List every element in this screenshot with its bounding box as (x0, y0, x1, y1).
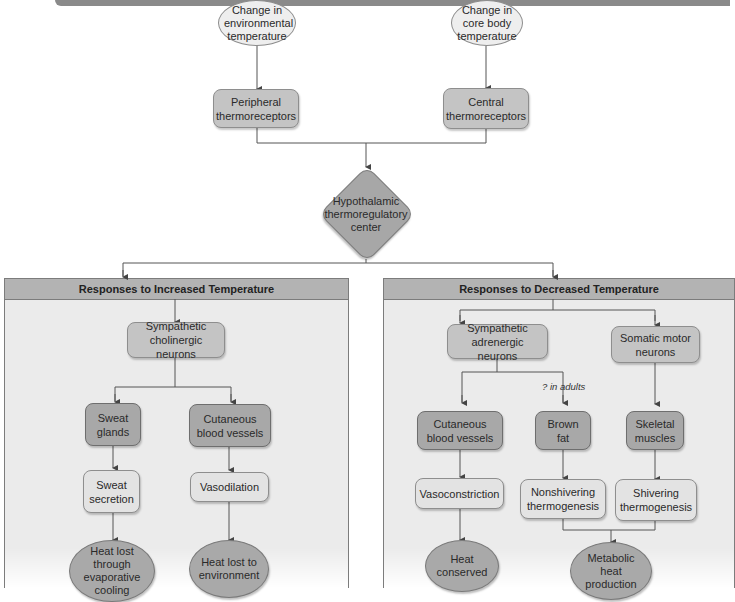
node-vasodilation: Vasodilation (190, 472, 269, 502)
node-sweat-glands: Sweat glands (85, 403, 141, 446)
node-nonshivering-thermogenesis: Nonshivering thermogenesis (520, 479, 606, 519)
outcome-evaporative-cooling: Heat lost through evaporative cooling (69, 540, 155, 602)
node-vasoconstriction: Vasoconstriction (415, 478, 504, 509)
node-shivering-thermogenesis: Shivering thermogenesis (615, 479, 697, 521)
node-central-thermoreceptors: Central thermoreceptors (443, 88, 529, 129)
input-environmental-temperature: Change in environmental temperature (218, 0, 296, 46)
annotation-in-adults: ? in adults (542, 381, 585, 392)
node-sweat-secretion: Sweat secretion (83, 470, 140, 513)
node-hypothalamic-center: Hypothalamic thermoregulatory center (320, 167, 412, 259)
node-sympathetic-cholinergic: Sympathetic cholinergic neurons (127, 322, 225, 358)
input-core-body-temperature: Change in core body temperature (451, 0, 523, 46)
node-brown-fat: Brown fat (535, 411, 591, 450)
outcome-heat-conserved: Heat conserved (425, 540, 499, 592)
outcome-heat-lost-environment: Heat lost to environment (189, 540, 269, 598)
node-cutaneous-vessels-decreased: Cutaneous blood vessels (417, 411, 503, 450)
node-skeletal-muscles: Skeletal muscles (626, 411, 684, 450)
node-somatic-motor-neurons: Somatic motor neurons (611, 326, 700, 363)
node-sympathetic-adrenergic: Sympathetic adrenergic neurons (447, 324, 548, 359)
node-peripheral-thermoreceptors: Peripheral thermoreceptors (213, 89, 299, 128)
outcome-metabolic-heat: Metabolic heat production (570, 542, 652, 600)
node-cutaneous-vessels-increased: Cutaneous blood vessels (189, 404, 271, 447)
